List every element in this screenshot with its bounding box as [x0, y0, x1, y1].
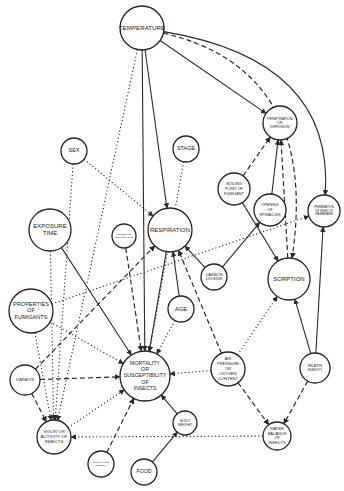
node-regurgitation-label: REGURGITATION	[115, 236, 134, 238]
node-properties-label: FUMIGANTS	[15, 314, 48, 320]
node-regurgitation: PROTECTIVEREGURGITATION	[112, 224, 136, 248]
node-exposure: EXPOSURETIME	[29, 209, 71, 251]
node-boiling: BOILINGPOINT OFFUMIGANT	[218, 173, 250, 205]
edge-population-to-mortality	[107, 398, 134, 452]
node-sex: SEX	[61, 138, 87, 164]
node-regurgitation-label: PROTECTIVE	[117, 233, 132, 235]
node-mortality-label: INSECTS	[134, 385, 157, 391]
node-spiracles: OPENINGOFSPIRACLES	[254, 194, 286, 226]
node-spiracles-label: SPIRACLES	[259, 213, 281, 217]
edge-co2-to-respiration	[185, 246, 205, 267]
node-air: AIRPRESSUREOROXYGENCONTENT	[211, 352, 245, 386]
influence-diagram: TEMPERATURESEXSTAGEPENETRATIONORDIFFUSIO…	[0, 0, 344, 491]
node-vigor-label: INSECTS	[45, 439, 64, 444]
node-exposure-label: EXPOSURE	[33, 223, 66, 229]
edge-sex-to-vigor	[55, 164, 73, 420]
node-temperature-label: TEMPERATURE	[119, 24, 165, 31]
node-boiling-label: BOILING	[226, 182, 241, 186]
node-spiracles-label: OPENING	[261, 203, 279, 207]
node-mortality: MORTALITYORSUSCEPTIBILITYOFINSECTS	[120, 351, 170, 401]
edge-humidity-to-sorption	[295, 299, 311, 353]
node-boiling-label: POINT OF	[225, 187, 244, 191]
edge-exposure-to-mortality	[61, 248, 131, 355]
edge-air-to-mortality	[170, 370, 211, 373]
node-mortality-label: MORTALITY	[130, 360, 160, 366]
node-sorption-label: SORPTION	[273, 276, 304, 282]
node-population: POPULATIONDENSITY	[88, 451, 114, 477]
edge-starvation-to-vigor	[32, 393, 46, 421]
node-exposure-label: TIME	[43, 230, 57, 236]
edge-age-to-respiration	[173, 252, 179, 296]
node-co2-label: DIOXIDE	[206, 276, 223, 281]
node-properties: PROPERTIESOFFUMIGANTS	[9, 289, 53, 333]
node-penetration: PENETRATIONORDIFFUSION	[263, 106, 297, 140]
node-respiration-label: RESPIRATION	[150, 227, 190, 233]
node-air-label: CONTENT	[218, 376, 238, 381]
edge-respiration-to-mortality	[149, 252, 166, 352]
edge-humidity-to-water	[284, 381, 308, 424]
node-sorption: SORPTION	[268, 258, 310, 300]
node-permeation-label: MEMBRANE	[315, 212, 332, 216]
node-spiracles-label: OF	[267, 208, 273, 212]
edge-exposure-to-vigor	[50, 251, 53, 420]
edge-bodyweight-to-mortality	[161, 395, 177, 414]
edge-boiling-to-penetration	[243, 137, 270, 176]
edge-regurgitation-to-mortality	[126, 248, 142, 351]
node-humidity: RELATIVEHUMIDITY	[300, 353, 330, 383]
node-mortality-label: OF	[141, 379, 149, 385]
node-starvation: STARVATION	[10, 365, 40, 395]
node-stage: STAGE	[173, 136, 199, 162]
edge-age-to-mortality	[157, 320, 175, 354]
node-starvation-label: STARVATION	[16, 378, 34, 382]
edge-vigor-to-mortality	[68, 390, 124, 428]
node-water: WATERBALANCEOFINSECTS	[263, 422, 291, 450]
edge-temperature-to-permeation	[164, 32, 326, 195]
node-mortality-label: OR	[141, 366, 149, 372]
node-properties-label: PROPERTIES	[13, 301, 49, 307]
edge-humidity-to-permeation	[316, 227, 323, 353]
node-bodyweight: BODYWEIGHT	[173, 411, 197, 435]
node-penetration-label: DIFFUSION	[270, 125, 290, 129]
node-vigor: VIGOR ORACTIVITY OFINSECTS	[37, 420, 71, 454]
edge-temperature-to-respiration	[145, 50, 167, 208]
node-food-label: FOOD	[137, 468, 152, 474]
caption-strip	[0, 487, 344, 491]
node-water-label: INSECTS	[268, 440, 286, 445]
node-temperature: TEMPERATURE	[119, 6, 165, 50]
node-mortality-label: SUSCEPTIBILITY	[124, 372, 167, 378]
edge-co2-to-spiracles	[222, 222, 259, 267]
edge-water-to-vigor	[71, 436, 263, 437]
node-age: AGE	[168, 296, 194, 322]
node-bodyweight-label: WEIGHT	[178, 423, 193, 427]
node-stage-label: STAGE	[177, 145, 196, 151]
node-food: FOOD	[131, 459, 157, 485]
node-population-label: DENSITY	[96, 464, 107, 467]
node-age-label: AGE	[175, 306, 188, 312]
node-co2: CARBONDIOXIDE	[201, 264, 227, 290]
edge-starvation-to-mortality	[40, 377, 120, 380]
edge-air-to-water	[238, 383, 269, 425]
node-respiration: RESPIRATION	[148, 208, 192, 252]
node-humidity-label: HUMIDITY	[308, 368, 323, 372]
node-sex-label: SEX	[68, 147, 79, 153]
node-properties-label: OF	[27, 307, 35, 313]
edge-air-to-sorption	[238, 296, 278, 355]
node-permeation: PERMEATIONOF INSECTSMEMBRANE	[308, 195, 340, 227]
edge-spiracles-to-penetration	[272, 140, 278, 194]
node-boiling-label: FUMIGANT	[224, 192, 245, 196]
edge-temperature-to-mortality	[142, 50, 145, 351]
